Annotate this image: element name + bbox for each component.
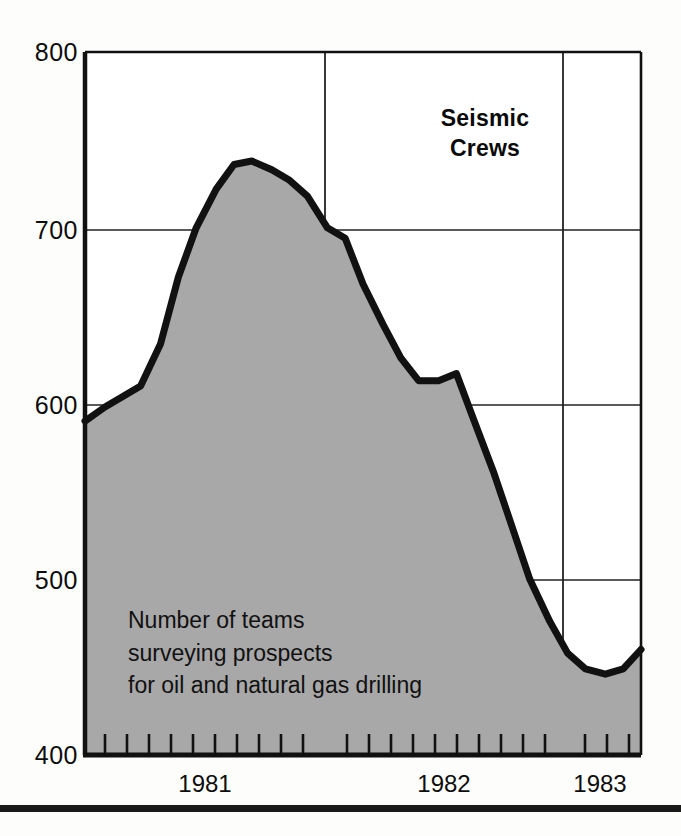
bottom-rule bbox=[0, 805, 681, 812]
caption-line-1: Number of teams bbox=[128, 604, 422, 637]
caption-line-2: surveying prospects bbox=[128, 637, 422, 670]
x-axis-label-1981: 1981 bbox=[135, 770, 275, 798]
x-axis-label-1982: 1982 bbox=[374, 770, 514, 798]
y-axis-label-600: 600 bbox=[8, 391, 78, 420]
chart-title-line-1: Seismic bbox=[441, 105, 529, 131]
chart-figure: 800 700 600 500 400 1981 1982 1983 Seism… bbox=[0, 0, 681, 836]
chart-title: Seismic Crews bbox=[385, 103, 585, 164]
y-axis-label-500: 500 bbox=[8, 566, 78, 595]
caption-line-3: for oil and natural gas drilling bbox=[128, 669, 422, 702]
x-axis-label-1983: 1983 bbox=[530, 770, 670, 798]
y-axis-label-400: 400 bbox=[8, 741, 78, 770]
chart-title-line-2: Crews bbox=[450, 135, 520, 161]
chart-caption: Number of teams surveying prospects for … bbox=[128, 604, 422, 702]
y-axis-label-700: 700 bbox=[8, 216, 78, 245]
y-axis-label-800: 800 bbox=[8, 38, 78, 67]
